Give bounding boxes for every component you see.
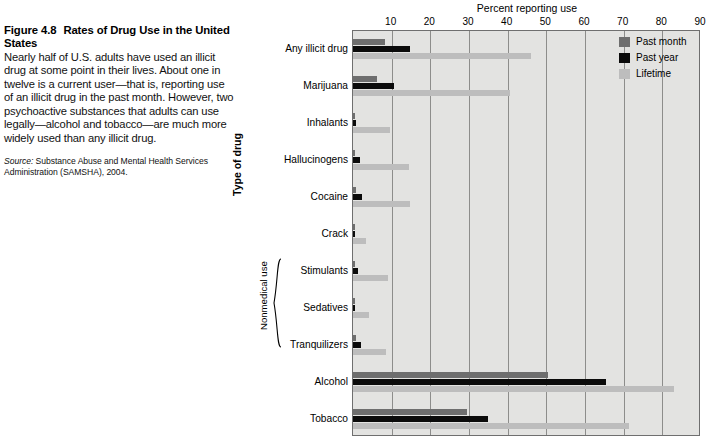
bar-group [353, 223, 699, 245]
legend-swatch-past-year [619, 53, 630, 63]
bar-any-illicit-drug-lifetime [353, 53, 531, 59]
bar-group [353, 260, 699, 282]
bar-any-illicit-drug-past-year [353, 46, 410, 52]
bar-stimulants-past-year [353, 268, 358, 274]
bar-tobacco-past-month [353, 409, 467, 415]
bar-marijuana-lifetime [353, 90, 510, 96]
bar-inhalants-lifetime [353, 127, 390, 133]
bar-tranquilizers-lifetime [353, 349, 386, 355]
y-axis-label-stimulants: Stimulants [0, 264, 348, 275]
bar-group [353, 408, 699, 430]
bar-alcohol-past-year [353, 379, 606, 385]
bar-hallucinogens-lifetime [353, 164, 409, 170]
y-axis-label-inhalants: Inhalants [0, 117, 348, 128]
bar-tranquilizers-past-month [353, 335, 356, 341]
x-axis-title: Percent reporting use [352, 2, 702, 14]
x-tick-label-40: 40 [501, 16, 512, 27]
bar-sedatives-past-year [353, 305, 355, 311]
bar-cocaine-past-year [353, 194, 362, 200]
bar-stimulants-lifetime [353, 275, 388, 281]
bar-crack-past-month [353, 224, 355, 230]
y-axis-label-marijuana: Marijuana [0, 80, 348, 91]
x-tick-label-50: 50 [540, 16, 551, 27]
legend-item[interactable]: Lifetime [619, 68, 687, 79]
y-axis-label-cocaine: Cocaine [0, 191, 348, 202]
plot-area [352, 30, 700, 436]
figure-root: Figure 4.8Rates of Drug Use in the Unite… [0, 0, 711, 444]
bar-hallucinogens-past-year [353, 157, 360, 163]
bar-alcohol-past-month [353, 372, 548, 378]
y-axis-label-crack: Crack [0, 228, 348, 239]
bar-marijuana-past-month [353, 76, 377, 82]
y-axis-label-sedatives: Sedatives [0, 301, 348, 312]
bar-group [353, 149, 699, 171]
x-axis-ticks: 102030405060708090 [0, 16, 711, 29]
bar-sedatives-lifetime [353, 312, 369, 318]
x-tick-label-90: 90 [694, 16, 705, 27]
legend-item[interactable]: Past month [619, 36, 687, 47]
bar-tobacco-lifetime [353, 423, 629, 429]
bar-tranquilizers-past-year [353, 342, 361, 348]
legend-label: Past year [636, 52, 678, 63]
y-axis-label-hallucinogens: Hallucinogens [0, 154, 348, 165]
legend-swatch-past-month [619, 37, 630, 47]
bar-marijuana-past-year [353, 83, 394, 89]
legend-label: Past month [636, 36, 687, 47]
bar-inhalants-past-year [353, 120, 356, 126]
bar-stimulants-past-month [353, 261, 355, 267]
bar-group [353, 186, 699, 208]
legend-label: Lifetime [636, 68, 671, 79]
legend-item[interactable]: Past year [619, 52, 687, 63]
bar-crack-lifetime [353, 238, 366, 244]
bar-hallucinogens-past-month [353, 150, 355, 156]
y-axis-label-any-illicit-drug: Any illicit drug [0, 43, 348, 54]
bar-tobacco-past-year [353, 416, 488, 422]
legend-swatch-lifetime [619, 69, 630, 79]
x-tick-label-30: 30 [462, 16, 473, 27]
x-tick-label-80: 80 [656, 16, 667, 27]
bar-group [353, 297, 699, 319]
bar-crack-past-year [353, 231, 355, 237]
bar-alcohol-lifetime [353, 386, 674, 392]
x-tick-label-20: 20 [424, 16, 435, 27]
x-tick-label-70: 70 [617, 16, 628, 27]
bar-group [353, 334, 699, 356]
bar-inhalants-past-month [353, 113, 355, 119]
bar-sedatives-past-month [353, 298, 355, 304]
x-tick-label-60: 60 [578, 16, 589, 27]
x-tick-label-10: 10 [385, 16, 396, 27]
bar-cocaine-lifetime [353, 201, 410, 207]
bar-group [353, 371, 699, 393]
chart-legend: Past monthPast yearLifetime [614, 32, 693, 84]
bar-any-illicit-drug-past-month [353, 39, 385, 45]
y-axis-label-tranquilizers: Tranquilizers [0, 338, 348, 349]
y-axis-label-alcohol: Alcohol [0, 375, 348, 386]
y-axis-label-tobacco: Tobacco [0, 412, 348, 423]
bar-cocaine-past-month [353, 187, 356, 193]
bar-group [353, 112, 699, 134]
